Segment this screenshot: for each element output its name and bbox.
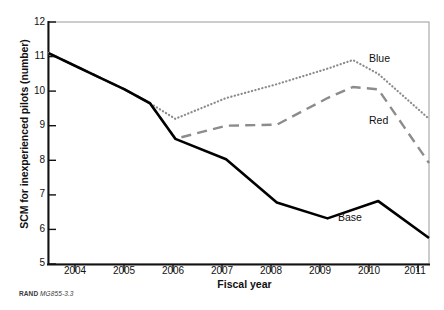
series-line-base [49, 53, 430, 238]
y-tick-label-6: 6 [19, 223, 45, 234]
x-tick-label-2005: 2005 [101, 265, 147, 276]
x-tick-label-2008: 2008 [248, 265, 294, 276]
y-tick-label-9: 9 [19, 119, 45, 130]
series-line-red [49, 53, 430, 163]
chart-figure: SCM for inexperienced pilots (number) Fi… [0, 0, 444, 310]
x-tick-label-2010: 2010 [346, 265, 392, 276]
x-tick-label-2006: 2006 [150, 265, 196, 276]
y-tick-label-8: 8 [19, 154, 45, 165]
plot-area [0, 0, 444, 310]
x-tick-label-2009: 2009 [297, 265, 343, 276]
y-tick-label-5: 5 [19, 257, 45, 268]
series-label-blue: Blue [369, 52, 390, 64]
series-layer [49, 53, 430, 238]
x-axis-title: Fiscal year [45, 278, 444, 290]
y-tick-label-7: 7 [19, 188, 45, 199]
y-tick-label-12: 12 [19, 16, 45, 27]
x-tick-label-2004: 2004 [52, 265, 98, 276]
y-tick-label-10: 10 [19, 85, 45, 96]
series-label-base: Base [338, 211, 362, 223]
x-tick-label-2011: 2011 [392, 265, 438, 276]
series-label-red: Red [369, 114, 388, 126]
source-note-id: MG855-3.3 [40, 290, 73, 297]
source-note: RAND MG855-3.3 [19, 290, 74, 297]
x-tick-label-2007: 2007 [199, 265, 245, 276]
source-note-prefix: RAND [19, 290, 38, 297]
y-tick-label-11: 11 [19, 50, 45, 61]
